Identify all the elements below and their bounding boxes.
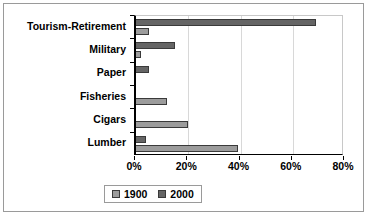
value-tick-label: 40% — [228, 160, 249, 172]
bar-1900 — [136, 121, 188, 128]
value-tick-label: 80% — [332, 160, 353, 172]
bar-group — [136, 133, 342, 156]
value-tick-label: 0% — [126, 160, 141, 172]
bar-group — [136, 63, 342, 86]
bar-group — [136, 109, 342, 132]
value-axis: 0%20%40%60%80% — [134, 156, 343, 174]
bar-2000 — [136, 66, 149, 73]
bar-1900 — [136, 28, 149, 35]
legend-label: 2000 — [170, 188, 193, 200]
chart-legend: 19002000 — [104, 185, 202, 203]
bar-group — [136, 39, 342, 62]
legend-entry-2000: 2000 — [158, 188, 193, 200]
bar-1900 — [136, 51, 141, 58]
category-label: Military — [0, 43, 126, 55]
value-tick-label: 60% — [280, 160, 301, 172]
bar-1900 — [136, 98, 167, 105]
category-label: Fisheries — [0, 90, 126, 102]
category-label: Cigars — [0, 113, 126, 125]
value-tick-label: 20% — [176, 160, 197, 172]
plot-area — [134, 15, 343, 155]
bar-2000 — [136, 136, 146, 143]
bar-group — [136, 16, 342, 39]
category-label: Paper — [0, 66, 126, 78]
legend-label: 1900 — [124, 188, 147, 200]
legend-entry-1900: 1900 — [112, 188, 147, 200]
bar-2000 — [136, 42, 175, 49]
category-axis: Tourism-RetirementMilitaryPaperFisheries… — [4, 15, 130, 155]
chart-figure: Tourism-RetirementMilitaryPaperFisheries… — [3, 3, 364, 212]
bar-1900 — [136, 145, 238, 152]
category-label: Lumber — [0, 136, 126, 148]
bar-group — [136, 86, 342, 109]
legend-swatch-1900-icon — [112, 190, 120, 198]
category-label: Tourism-Retirement — [0, 20, 126, 32]
bar-2000 — [136, 19, 316, 26]
legend-swatch-2000-icon — [158, 190, 166, 198]
